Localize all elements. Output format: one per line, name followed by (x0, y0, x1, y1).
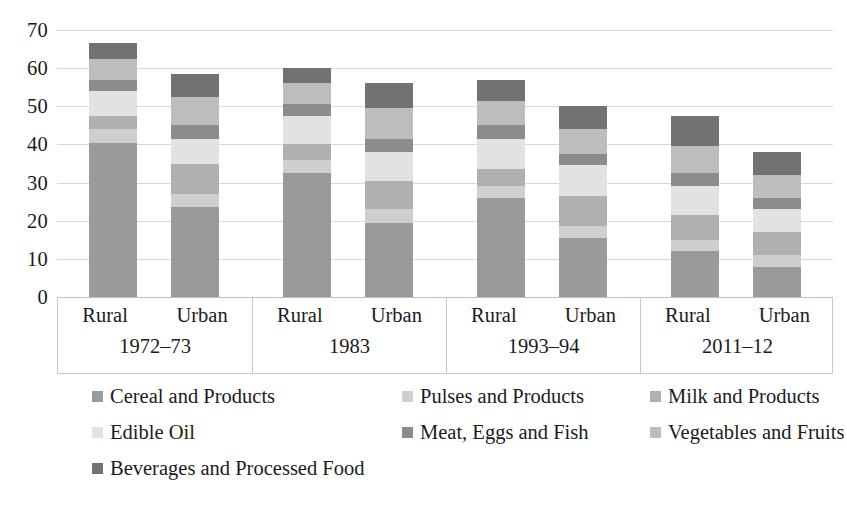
bar-2011-12-urban (753, 152, 801, 297)
y-axis-tick-label: 10 (27, 249, 48, 270)
legend-item[interactable]: Edible Oil (92, 422, 195, 443)
bar-segment (671, 116, 719, 147)
bar-segment (477, 80, 525, 101)
legend-item[interactable]: Milk and Products (650, 386, 819, 407)
bar-segment (477, 186, 525, 197)
legend-swatch-icon (650, 391, 661, 402)
legend-swatch-icon (650, 427, 661, 438)
bar-segment (753, 209, 801, 232)
x-axis-period-label: 1993–94 (447, 334, 640, 360)
bar-segment (559, 196, 607, 227)
bar-segment (89, 43, 137, 58)
y-axis-tick-label: 40 (27, 134, 48, 155)
bar-segment (171, 125, 219, 138)
y-axis-tick-label: 0 (38, 287, 48, 308)
y-axis-tick-label: 70 (27, 20, 48, 41)
legend-item-label: Beverages and Processed Food (110, 458, 364, 479)
bar-segment (671, 173, 719, 186)
chart-legend: Cereal and ProductsPulses and ProductsMi… (57, 386, 847, 491)
bar-segment (477, 101, 525, 126)
bar-1983-rural (283, 68, 331, 297)
legend-swatch-icon (92, 463, 103, 474)
bar-segment (671, 240, 719, 251)
legend-item-label: Milk and Products (668, 386, 819, 407)
bar-segment (365, 152, 413, 181)
x-axis-sector-label: Rural (277, 303, 323, 329)
bar-segment (753, 175, 801, 198)
legend-item[interactable]: Cereal and Products (92, 386, 275, 407)
y-axis-tick-label: 20 (27, 210, 48, 231)
legend-item[interactable]: Beverages and Processed Food (92, 458, 364, 479)
x-axis-sector-label: Rural (82, 303, 128, 329)
legend-item-label: Pulses and Products (420, 386, 584, 407)
legend-item-label: Edible Oil (110, 422, 195, 443)
bar-segment (671, 146, 719, 173)
bar-segment (171, 97, 219, 126)
legend-swatch-icon (402, 427, 413, 438)
x-axis-period-label: 1972–73 (58, 334, 252, 360)
bar-segment (283, 68, 331, 83)
bar-segment (559, 226, 607, 237)
x-axis-sector-labels: RuralUrban (58, 303, 252, 329)
x-axis-sector-label: Rural (665, 303, 711, 329)
bar-segment (477, 125, 525, 138)
x-axis-sector-label: Rural (471, 303, 517, 329)
bar-segment (559, 165, 607, 196)
bar-segment (171, 207, 219, 297)
legend-item-label: Cereal and Products (110, 386, 275, 407)
bar-1972-73-urban (171, 74, 219, 297)
bar-1983-urban (365, 83, 413, 297)
bar-segment (171, 194, 219, 207)
bar-segment (753, 232, 801, 255)
legend-item[interactable]: Pulses and Products (402, 386, 584, 407)
bar-1993-94-urban (559, 106, 607, 297)
x-axis-sector-label: Urban (565, 303, 616, 329)
x-axis-sector-label: Urban (759, 303, 810, 329)
bar-segment (89, 143, 137, 297)
bar-segment (753, 198, 801, 209)
bar-segment (283, 173, 331, 297)
bar-segment (365, 181, 413, 210)
y-axis-tick-label: 50 (27, 96, 48, 117)
bar-segment (753, 152, 801, 175)
bar-1972-73-rural (89, 43, 137, 297)
x-axis-group-1993–94: RuralUrban1993–94 (446, 298, 640, 373)
bar-segment (283, 160, 331, 173)
x-axis-group-1983: RuralUrban1983 (252, 298, 446, 373)
x-axis: RuralUrban1972–73RuralUrban1983RuralUrba… (57, 298, 833, 374)
bar-segment (559, 129, 607, 154)
bar-segment (283, 83, 331, 104)
bar-segment (477, 169, 525, 186)
x-axis-group-1972–73: RuralUrban1972–73 (58, 298, 252, 373)
bar-segment (671, 215, 719, 240)
legend-item[interactable]: Meat, Eggs and Fish (402, 422, 589, 443)
bar-segment (283, 116, 331, 145)
stacked-bar-chart: 010203040506070 RuralUrban1972–73RuralUr… (0, 0, 847, 525)
bar-segment (171, 74, 219, 97)
legend-item-label: Meat, Eggs and Fish (420, 422, 589, 443)
bar-segment (559, 106, 607, 129)
x-axis-sector-label: Urban (176, 303, 227, 329)
legend-item-label: Vegetables and Fruits (668, 422, 845, 443)
bar-segment (671, 186, 719, 215)
x-axis-sector-label: Urban (371, 303, 422, 329)
bar-segment (89, 91, 137, 116)
bar-1993-94-rural (477, 80, 525, 297)
x-axis-period-label: 1983 (253, 334, 446, 360)
bar-segment (559, 154, 607, 165)
bar-segment (365, 108, 413, 139)
bar-segment (365, 223, 413, 297)
x-axis-group-2011–12: RuralUrban2011–12 (640, 298, 834, 373)
legend-item[interactable]: Vegetables and Fruits (650, 422, 845, 443)
x-axis-period-label: 2011–12 (641, 334, 834, 360)
bar-segment (365, 139, 413, 152)
x-axis-sector-labels: RuralUrban (641, 303, 834, 329)
bar-segment (283, 104, 331, 115)
bar-2011-12-rural (671, 116, 719, 297)
x-axis-sector-labels: RuralUrban (253, 303, 446, 329)
bar-segment (89, 59, 137, 80)
legend-swatch-icon (92, 427, 103, 438)
bar-segment (559, 238, 607, 297)
bar-segment (89, 116, 137, 129)
bar-segment (671, 251, 719, 297)
